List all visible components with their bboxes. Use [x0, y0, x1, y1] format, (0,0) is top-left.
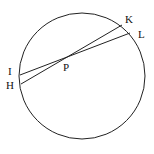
circle [19, 13, 145, 139]
label-L: L [138, 29, 145, 40]
label-P: P [63, 62, 69, 73]
label-I: I [8, 66, 12, 77]
diagram: I H K L P [0, 0, 154, 154]
chord-HK [21, 25, 122, 84]
label-K: K [125, 14, 133, 25]
label-H: H [6, 80, 14, 91]
chord-IL [20, 33, 130, 75]
